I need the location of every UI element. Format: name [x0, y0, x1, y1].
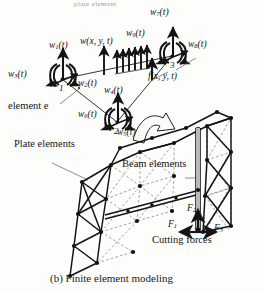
dof-label-w1: w1(t): [49, 41, 68, 51]
node-number-2: 2: [114, 126, 119, 136]
distributed-load-arrows: [104, 45, 147, 75]
dof-label-w4: w4(t): [104, 86, 123, 96]
dof-label-w3: w3(t): [8, 70, 27, 80]
dof-label-w5: w5(t): [117, 128, 136, 138]
beam-elements-label: Beam elements: [122, 158, 186, 169]
dof-label-w7-subscript: 7: [156, 10, 159, 17]
cutting-forces-label: Cutting forces: [152, 234, 212, 245]
dof-label-w1-subscript: 1: [55, 43, 58, 50]
distributed-load-baseline: [115, 68, 150, 74]
node-number-1: 1: [59, 83, 64, 93]
dof-label-w6: w6(t): [78, 110, 97, 120]
dof-label-w6-subscript: 6: [84, 112, 87, 119]
top-cropped-text: plate element: [74, 0, 117, 8]
force-label-F3-subscript: 3: [220, 226, 223, 233]
dof-label-w3-subscript: 3: [14, 72, 17, 79]
dof-label-w4-subscript: 4: [110, 88, 113, 95]
distributed-load-label: w(x, y, t): [80, 37, 113, 47]
force-label-F1: F1: [168, 220, 177, 230]
dof-label-w2: w2(t): [78, 79, 97, 89]
figure-caption: (b) Finite element modeling: [50, 272, 173, 284]
node-number-3: 3: [170, 60, 175, 70]
element-e-label: element e: [8, 100, 49, 111]
dof-label-w7: w7(t): [150, 8, 169, 18]
dof-label-w8: w8(t): [188, 40, 207, 50]
force-label-F2-subscript: 2: [193, 206, 196, 213]
force-label-F2: F2: [187, 204, 196, 214]
dof-label-w2-subscript: 2: [84, 81, 87, 88]
force-label-F3: F3: [214, 224, 223, 234]
dof-label-w9-subscript: 9: [132, 31, 135, 38]
finite-element-modeling-figure: plate element w7(t) w9(t) w8(t) w1(t) w3…: [0, 0, 263, 292]
dof-label-w8-subscript: 8: [194, 42, 197, 49]
dof-label-w5-subscript: 5: [123, 130, 126, 137]
force-label-F1-subscript: 1: [174, 222, 177, 229]
dof-label-w9: w9(t): [126, 29, 145, 39]
structure-node-dots: [68, 110, 233, 278]
point-force-label: f(x, y, t): [148, 72, 177, 82]
plate-elements-label: Plate elements: [14, 138, 75, 149]
